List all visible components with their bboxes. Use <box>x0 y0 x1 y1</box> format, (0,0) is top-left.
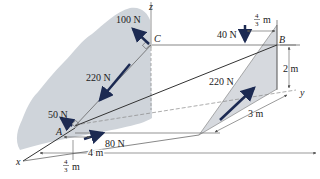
dim-height-label: 2 m <box>283 63 299 74</box>
dim-depth-label: 3 m <box>248 108 264 119</box>
label-40N: 40 N <box>217 29 237 40</box>
wall-surface <box>17 8 152 150</box>
dim-top-unit: m <box>263 14 271 25</box>
label-point-C: C <box>154 33 161 44</box>
dim-length-label: 4 m <box>88 147 104 158</box>
label-axis-z: z <box>148 1 153 12</box>
dim-bottom-unit: m <box>72 161 80 172</box>
dim-bottom-den: 3 <box>64 166 68 174</box>
statics-diagram: 100 N 220 N 220 N 40 N 50 N 80 N A B C x… <box>0 0 320 179</box>
label-axis-y: y <box>299 87 305 98</box>
dim-bottom-num: 4 <box>64 158 68 166</box>
label-50N: 50 N <box>48 109 68 120</box>
label-point-A: A <box>55 126 63 137</box>
label-80N: 80 N <box>105 138 125 149</box>
label-point-B: B <box>279 34 285 45</box>
label-axis-x: x <box>15 156 21 167</box>
label-220N-wall: 220 N <box>86 72 111 83</box>
label-220N-plate: 220 N <box>209 76 234 87</box>
label-100N: 100 N <box>116 14 141 25</box>
dim-top-num: 4 <box>255 12 259 20</box>
dim-top-den: 3 <box>255 20 259 28</box>
